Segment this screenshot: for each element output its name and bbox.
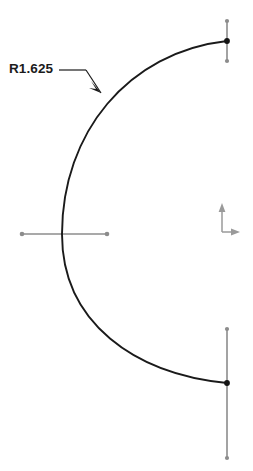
arc-bottom-endpoint[interactable]	[224, 380, 230, 386]
cad-drawing-canvas[interactable]: R1.625	[0, 0, 253, 471]
xy-axis-triad	[219, 203, 240, 235]
main-arc[interactable]	[62, 41, 227, 383]
bottom-line-upper-handle[interactable]	[225, 327, 229, 331]
top-line-lower-handle[interactable]	[225, 59, 229, 63]
radius-dimension-label[interactable]: R1.625	[9, 62, 53, 76]
axis-y-arrowhead-icon	[219, 203, 226, 212]
arc-group	[62, 41, 227, 383]
radius-dimension-leader[interactable]	[59, 70, 101, 93]
arc-top-endpoint[interactable]	[224, 38, 230, 44]
centerline-left-handle[interactable]	[20, 232, 25, 237]
axis-x-arrowhead-icon	[231, 229, 240, 236]
top-line-upper-handle[interactable]	[225, 19, 229, 23]
bottom-line-lower-handle[interactable]	[225, 456, 229, 460]
centerline-right-handle[interactable]	[105, 232, 110, 237]
